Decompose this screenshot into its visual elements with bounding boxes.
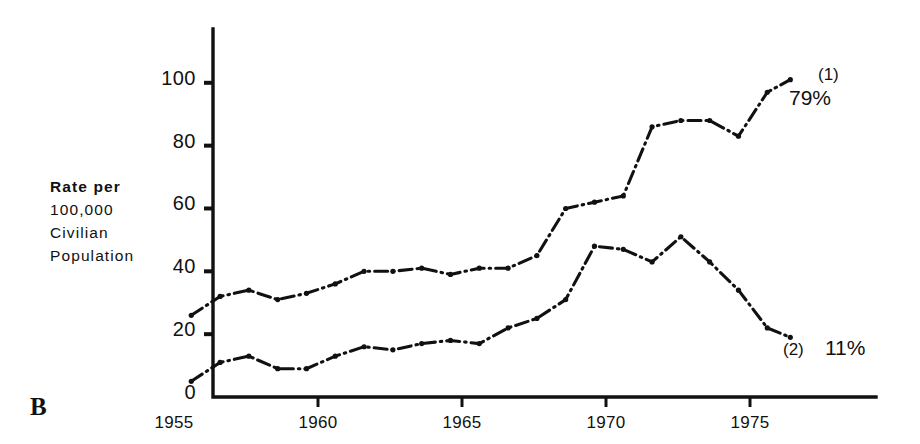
series-1-tag: (1) [818,65,839,84]
x-tick-label-1970: 1970 [586,413,625,432]
series-2-point [477,341,482,346]
x-tick-label-1965: 1965 [442,413,481,432]
series-1-point [788,77,793,82]
axes [204,29,876,407]
y-axis-title-line-3: Civilian [50,224,109,241]
series-2-point [592,244,597,249]
y-axis-title-line-2: 100,000 [50,201,114,218]
x-tick-label-1960: 1960 [298,413,337,432]
series-1-point [707,118,712,123]
series-2-point [649,259,654,264]
series-1-point [304,291,309,296]
series-2-point [765,325,770,330]
series-2-point [678,234,683,239]
panel-label: B [30,393,47,420]
series-1-point [189,313,194,318]
series-1-point [649,124,654,129]
series-1-point [505,266,510,271]
series-2-point [736,288,741,293]
series-1-percent: 79% [789,86,831,109]
y-tick-label-40: 40 [173,255,196,277]
series-1-point [592,200,597,205]
annotation-series-2: (2) 11% [783,336,865,359]
axis-frame [213,29,876,397]
series-2-point [246,354,251,359]
series-1-point [390,269,395,274]
series-1-point [361,269,366,274]
series-1-point [736,134,741,139]
series-2-path [191,237,790,382]
series-group [189,77,793,384]
series-1-point [477,266,482,271]
y-axis-title-line-1: Rate per [50,178,121,195]
y-axis-title-line-4: Population [50,247,134,264]
series-2-point [333,354,338,359]
y-tick-label-100: 100 [161,67,196,89]
series-2-point [448,338,453,343]
y-tick-labels: 020406080100 [161,67,196,403]
series-1-line [189,77,793,318]
series-1-point [246,288,251,293]
y-axis-title: Rate per 100,000 Civilian Population [50,178,134,264]
series-1-point [419,266,424,271]
series-2-point [189,379,194,384]
y-tick-label-80: 80 [173,130,196,152]
series-1-point [448,272,453,277]
y-tick-label-60: 60 [173,192,196,214]
line-chart: 020406080100 19551960196519701975 Rate p… [0,0,920,444]
series-2-line [189,234,793,384]
series-2-point [534,316,539,321]
x-tick-labels: 19551960196519701975 [154,413,769,432]
series-2-point [361,344,366,349]
series-2-point [275,366,280,371]
series-1-point [621,193,626,198]
figure-panel-b: 020406080100 19551960196519701975 Rate p… [0,0,920,444]
series-2-tag: (2) [783,340,804,359]
series-2-point [621,247,626,252]
y-tick-label-0: 0 [184,381,196,403]
series-2-point [304,366,309,371]
x-tick-label-1975: 1975 [730,413,769,432]
series-1-point [534,253,539,258]
series-1-point [217,294,222,299]
series-1-point [333,281,338,286]
series-2-point [505,325,510,330]
series-2-point [390,347,395,352]
series-1-point [563,206,568,211]
x-tick-label-1955: 1955 [154,413,193,432]
series-2-percent: 11% [825,336,865,359]
series-1-point [275,297,280,302]
series-1-path [191,80,790,316]
series-2-point [419,341,424,346]
y-tick-label-20: 20 [173,318,196,340]
series-1-point [765,90,770,95]
annotation-series-1: (1) 79% [789,65,839,109]
series-1-point [678,118,683,123]
series-2-point [563,297,568,302]
series-2-point [217,360,222,365]
series-2-point [707,259,712,264]
